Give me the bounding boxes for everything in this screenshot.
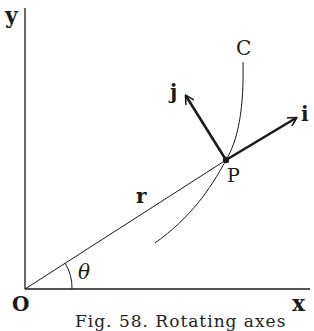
point-label: P	[227, 166, 240, 185]
origin-label: O	[12, 294, 29, 314]
vector-i-label: i	[301, 104, 309, 124]
vector-i	[226, 118, 296, 160]
figure-caption: Fig. 58. Rotating axes	[75, 311, 286, 331]
point-p-dot	[223, 157, 229, 163]
angle-arc	[65, 263, 72, 289]
radius-label: r	[136, 186, 147, 206]
angle-label: θ	[78, 262, 90, 282]
curve-label: C	[236, 38, 251, 58]
curve-c	[155, 62, 243, 243]
y-axis-label: y	[5, 4, 18, 26]
vector-j-label: j	[170, 82, 177, 102]
x-axis-label: x	[292, 292, 305, 314]
radius-line	[25, 160, 226, 289]
vector-j	[186, 96, 226, 160]
